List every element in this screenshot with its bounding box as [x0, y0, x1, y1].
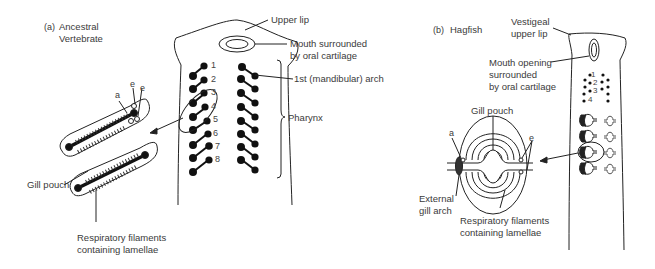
arch-number: 8 [215, 154, 220, 164]
arch-number: 5 [213, 114, 218, 124]
hagfish-gill-detail [447, 116, 533, 214]
label-mouth-b-line3: by oral cartilage [489, 81, 556, 93]
arch-number: 7 [215, 141, 220, 151]
label-external-line2: gill arch [419, 205, 452, 217]
label-mouth-line2: by oral cartilage [290, 50, 357, 62]
label-b-e: e [529, 132, 534, 144]
arch-number: 6 [213, 128, 218, 138]
label-a-a: a [115, 89, 120, 101]
label-b-a: a [449, 127, 454, 139]
label-mouth-b-line2: surrounded [489, 69, 537, 81]
panel-b-title: Hagfish [450, 24, 482, 36]
arch-number: 2 [211, 74, 216, 84]
label-gill-pouch-b: Gill pouch [471, 105, 513, 117]
panel-a-title-line1: Ancestral [59, 21, 99, 33]
label-resp-b-line1: Respiratory filaments [460, 215, 549, 227]
label-resp-a-line2: containing lamellae [77, 244, 158, 256]
label-external-line1: External [419, 193, 454, 205]
hagfish-body [540, 28, 626, 250]
panel-b-tag: (b) [433, 24, 444, 36]
label-gill-pouch-a: Gill pouch [27, 179, 69, 191]
label-mouth-line1: Mouth surrounded [290, 38, 367, 50]
panel-a-title-line2: Vertebrate [59, 33, 103, 45]
label-vestigeal-line2: upper lip [511, 28, 547, 40]
arch-number: 3 [593, 86, 597, 95]
arch-number: 1 [211, 60, 216, 70]
label-a-e2: e [140, 82, 145, 94]
ancestral-gill-detail [60, 88, 157, 222]
label-resp-a-line1: Respiratory filaments [77, 232, 166, 244]
label-vestigeal-line1: Vestigeal [511, 16, 550, 28]
label-upper-lip: Upper lip [271, 14, 309, 26]
ancestral-vertebrate-body [150, 20, 298, 205]
arch-number: 4 [211, 101, 216, 111]
label-a-e1: e [130, 78, 135, 90]
label-mouth-b-line1: Mouth opening [489, 57, 552, 69]
label-pharynx: Pharynx [288, 112, 323, 124]
label-first-arch: 1st (mandibular) arch [294, 73, 384, 85]
panel-a-tag: (a) [44, 21, 55, 33]
arch-number: 3 [211, 87, 216, 97]
arch-number: 4 [588, 95, 592, 104]
label-resp-b-line2: containing lamellae [460, 227, 541, 239]
